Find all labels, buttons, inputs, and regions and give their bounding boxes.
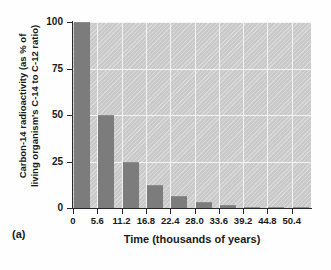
x-tick-label: 11.2 — [113, 216, 131, 226]
x-tick-label: 16.8 — [137, 216, 156, 226]
x-tick-mark — [292, 209, 293, 214]
bar — [74, 22, 90, 208]
figure-carbon-14-decay-chart: 0255075100 05.611.216.822.428.033.639.24… — [0, 0, 331, 270]
x-tick-mark — [97, 209, 98, 214]
y-tick-mark — [67, 22, 72, 23]
y-tick-label: 25 — [52, 157, 63, 167]
y-tick-label: 50 — [52, 110, 63, 120]
x-tick-mark — [267, 209, 268, 214]
gridline-vertical — [243, 22, 244, 208]
panel-caption: (a) — [12, 228, 25, 240]
y-tick-label: 0 — [57, 203, 63, 213]
x-tick-mark — [170, 209, 171, 214]
y-tick-label: 100 — [46, 17, 63, 27]
bar — [123, 162, 139, 209]
y-tick-label: 75 — [52, 64, 63, 74]
x-tick-label: 5.6 — [91, 216, 104, 226]
x-tick-label: 44.8 — [258, 216, 277, 226]
bar — [171, 196, 187, 208]
bar — [98, 115, 114, 208]
gridline-vertical — [146, 22, 147, 208]
x-tick-mark — [219, 209, 220, 214]
gridline-vertical — [267, 22, 268, 208]
y-tick-mark — [67, 69, 72, 70]
x-tick-label: 22.4 — [161, 216, 180, 226]
x-tick-label: 28.0 — [185, 216, 204, 226]
y-axis-title: Carbon-14 radioactivity (as % of living … — [17, 6, 41, 206]
x-tick-mark — [243, 209, 244, 214]
x-axis-title: Time (thousands of years) — [73, 233, 311, 245]
x-tick-label: 39.2 — [234, 216, 253, 226]
y-tick-mark — [67, 208, 72, 209]
y-axis-line — [72, 21, 73, 209]
gridline-vertical — [292, 22, 293, 208]
bar — [147, 185, 163, 208]
x-tick-mark — [195, 209, 196, 214]
x-tick-mark — [122, 209, 123, 214]
x-tick-mark — [146, 209, 147, 214]
y-tick-mark — [67, 162, 72, 163]
x-tick-mark — [73, 209, 74, 214]
y-axis-title-line-1: Carbon-14 radioactivity (as % of — [17, 6, 29, 206]
gridline-vertical — [195, 22, 196, 208]
gridline-vertical — [170, 22, 171, 208]
y-axis-title-line-2: living organism's C-14 to C-12 ratio) — [29, 6, 41, 206]
gridline-horizontal — [73, 22, 311, 23]
gridline-vertical — [219, 22, 220, 208]
plot-area — [73, 22, 311, 208]
y-tick-mark — [67, 115, 72, 116]
x-tick-label: 0 — [70, 216, 75, 226]
x-axis-line — [72, 208, 312, 209]
x-tick-label: 33.6 — [210, 216, 229, 226]
x-tick-label: 50.4 — [282, 216, 301, 226]
gridline-horizontal — [73, 69, 311, 70]
